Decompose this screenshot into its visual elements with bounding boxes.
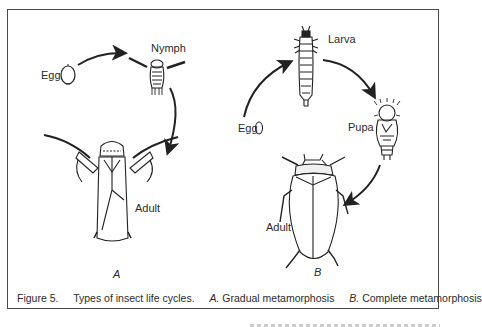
label-nymph: Nymph xyxy=(151,43,186,54)
figure-caption: Figure 5. Types of insect life cycles. A… xyxy=(17,292,482,304)
caption-title: Types of insect life cycles. xyxy=(73,292,194,304)
label-larva: Larva xyxy=(328,34,356,45)
arrow-nymph-to-adult xyxy=(168,88,176,152)
label-egg-b: Egg xyxy=(238,123,258,134)
clipped-text-line xyxy=(0,321,447,327)
nymph-icon xyxy=(129,58,185,95)
adult-bug-icon xyxy=(44,135,178,241)
arrow-pupa-to-adult xyxy=(346,165,380,204)
label-egg-a: Egg xyxy=(41,70,61,81)
larva-icon xyxy=(294,26,318,106)
arrow-larva-to-pupa xyxy=(323,60,374,96)
panel-a-letter: A xyxy=(113,268,120,280)
label-adult-a: Adult xyxy=(135,203,160,214)
label-pupa: Pupa xyxy=(348,122,374,133)
arrow-egg-to-nymph xyxy=(78,53,124,65)
caption-a-letter: A. xyxy=(209,292,219,304)
caption-b-letter: B. xyxy=(349,292,359,304)
caption-b-text: Complete metamorphosis xyxy=(362,292,482,304)
caption-a-text: Gradual metamorphosis xyxy=(222,292,334,304)
pupa-icon xyxy=(374,98,400,160)
arrow-egg-to-larva xyxy=(244,62,290,117)
caption-number: Figure 5. xyxy=(17,292,58,304)
panel-a-egg-icon xyxy=(61,64,75,84)
label-adult-b: Adult xyxy=(266,222,291,233)
beetle-icon xyxy=(280,154,348,268)
panel-b-letter: B xyxy=(314,266,321,278)
